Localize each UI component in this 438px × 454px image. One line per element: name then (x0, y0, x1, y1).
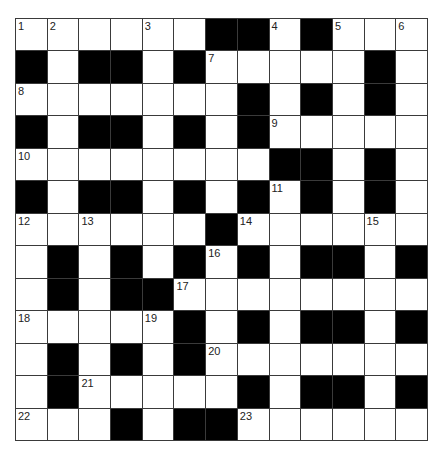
letter-cell[interactable] (396, 84, 427, 115)
letter-cell[interactable]: 15 (365, 214, 396, 245)
letter-cell[interactable] (396, 409, 427, 440)
letter-cell[interactable] (174, 19, 205, 50)
letter-cell[interactable]: 7 (206, 51, 237, 82)
letter-cell[interactable] (238, 51, 269, 82)
letter-cell[interactable] (143, 246, 174, 277)
letter-cell[interactable] (111, 84, 142, 115)
letter-cell[interactable]: 3 (143, 19, 174, 50)
letter-cell[interactable] (79, 149, 110, 180)
letter-cell[interactable] (270, 311, 301, 342)
letter-cell[interactable] (48, 214, 79, 245)
letter-cell[interactable] (333, 344, 364, 375)
letter-cell[interactable] (333, 149, 364, 180)
letter-cell[interactable]: 12 (16, 214, 47, 245)
letter-cell[interactable]: 9 (270, 116, 301, 147)
letter-cell[interactable]: 5 (333, 19, 364, 50)
letter-cell[interactable] (79, 84, 110, 115)
letter-cell[interactable] (365, 344, 396, 375)
letter-cell[interactable] (79, 409, 110, 440)
letter-cell[interactable] (301, 116, 332, 147)
letter-cell[interactable] (79, 311, 110, 342)
letter-cell[interactable] (206, 181, 237, 212)
letter-cell[interactable] (333, 409, 364, 440)
letter-cell[interactable] (270, 344, 301, 375)
letter-cell[interactable] (333, 116, 364, 147)
letter-cell[interactable]: 21 (79, 376, 110, 407)
letter-cell[interactable] (48, 181, 79, 212)
letter-cell[interactable] (79, 19, 110, 50)
letter-cell[interactable] (143, 149, 174, 180)
letter-cell[interactable] (301, 214, 332, 245)
letter-cell[interactable] (396, 116, 427, 147)
letter-cell[interactable] (79, 246, 110, 277)
letter-cell[interactable] (365, 279, 396, 310)
letter-cell[interactable] (16, 279, 47, 310)
letter-cell[interactable]: 10 (16, 149, 47, 180)
letter-cell[interactable] (365, 409, 396, 440)
letter-cell[interactable] (396, 279, 427, 310)
letter-cell[interactable] (174, 149, 205, 180)
letter-cell[interactable] (16, 246, 47, 277)
letter-cell[interactable] (301, 51, 332, 82)
letter-cell[interactable] (111, 149, 142, 180)
letter-cell[interactable] (396, 344, 427, 375)
letter-cell[interactable] (396, 51, 427, 82)
letter-cell[interactable] (270, 84, 301, 115)
letter-cell[interactable] (143, 344, 174, 375)
letter-cell[interactable] (48, 116, 79, 147)
letter-cell[interactable] (48, 409, 79, 440)
letter-cell[interactable] (333, 51, 364, 82)
letter-cell[interactable]: 8 (16, 84, 47, 115)
letter-cell[interactable] (365, 19, 396, 50)
letter-cell[interactable] (143, 84, 174, 115)
letter-cell[interactable]: 22 (16, 409, 47, 440)
letter-cell[interactable]: 11 (270, 181, 301, 212)
letter-cell[interactable] (48, 51, 79, 82)
letter-cell[interactable] (174, 214, 205, 245)
letter-cell[interactable] (143, 51, 174, 82)
letter-cell[interactable] (79, 279, 110, 310)
letter-cell[interactable]: 17 (174, 279, 205, 310)
letter-cell[interactable] (174, 376, 205, 407)
letter-cell[interactable] (396, 181, 427, 212)
letter-cell[interactable] (16, 344, 47, 375)
letter-cell[interactable] (365, 246, 396, 277)
letter-cell[interactable] (48, 311, 79, 342)
letter-cell[interactable] (143, 376, 174, 407)
letter-cell[interactable] (365, 311, 396, 342)
letter-cell[interactable] (270, 214, 301, 245)
letter-cell[interactable] (333, 279, 364, 310)
letter-cell[interactable] (396, 149, 427, 180)
letter-cell[interactable] (79, 344, 110, 375)
letter-cell[interactable]: 23 (238, 409, 269, 440)
letter-cell[interactable] (238, 149, 269, 180)
letter-cell[interactable] (206, 84, 237, 115)
letter-cell[interactable]: 14 (238, 214, 269, 245)
letter-cell[interactable] (143, 409, 174, 440)
letter-cell[interactable]: 1 (16, 19, 47, 50)
letter-cell[interactable] (301, 409, 332, 440)
letter-cell[interactable] (270, 409, 301, 440)
letter-cell[interactable] (238, 344, 269, 375)
letter-cell[interactable] (333, 84, 364, 115)
letter-cell[interactable] (301, 279, 332, 310)
letter-cell[interactable] (48, 84, 79, 115)
letter-cell[interactable] (206, 116, 237, 147)
letter-cell[interactable] (111, 19, 142, 50)
letter-cell[interactable] (238, 279, 269, 310)
letter-cell[interactable]: 18 (16, 311, 47, 342)
letter-cell[interactable] (333, 214, 364, 245)
letter-cell[interactable] (143, 181, 174, 212)
letter-cell[interactable] (111, 311, 142, 342)
letter-cell[interactable] (111, 214, 142, 245)
letter-cell[interactable] (270, 376, 301, 407)
letter-cell[interactable] (365, 376, 396, 407)
letter-cell[interactable] (333, 181, 364, 212)
letter-cell[interactable] (143, 214, 174, 245)
letter-cell[interactable]: 19 (143, 311, 174, 342)
letter-cell[interactable] (111, 376, 142, 407)
letter-cell[interactable] (174, 84, 205, 115)
letter-cell[interactable] (301, 344, 332, 375)
letter-cell[interactable]: 16 (206, 246, 237, 277)
letter-cell[interactable] (206, 311, 237, 342)
